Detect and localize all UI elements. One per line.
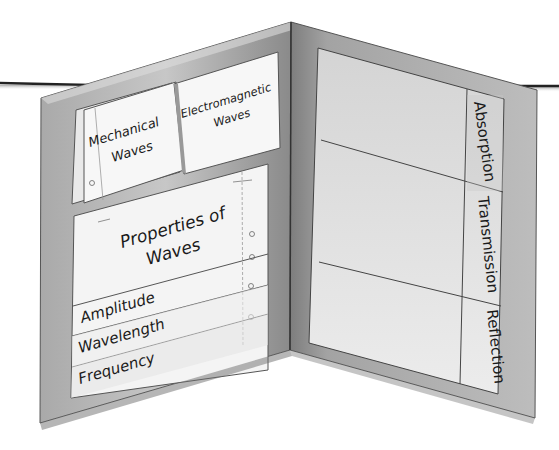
right-panel-chart — [309, 48, 504, 394]
foldable-figure: Absorption Transmission Reflection Mecha… — [0, 0, 559, 450]
